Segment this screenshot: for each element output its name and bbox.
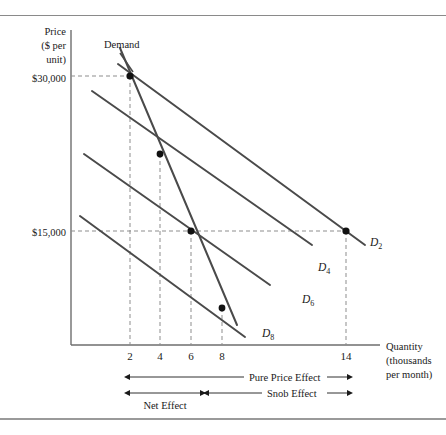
curve-label-d8: D8 (261, 327, 274, 342)
annotation-net-effect: Net Effect (130, 393, 200, 411)
point-q14-p15000 (342, 227, 349, 234)
x-tick-label-2: 2 (127, 350, 133, 362)
curve-d2 (118, 64, 365, 245)
curve-label-d6-sub: 6 (310, 299, 314, 308)
point-q4 (157, 151, 164, 158)
x-tick-label-8: 8 (219, 350, 225, 362)
x-axis-title-line-2: (thousands (386, 355, 432, 367)
snob-effect-demand-figure: Price ($ per unit) Quantity (thousands p… (0, 0, 446, 435)
curve-d6 (84, 154, 270, 285)
curve-labels: D2 D4 D6 D8 (261, 236, 382, 342)
curve-d8 (80, 216, 245, 337)
annotation-snob-effect: Snob Effect (209, 388, 347, 399)
point-q8 (219, 305, 226, 312)
curve-label-d6: D6 (301, 293, 314, 308)
curve-label-d8-sub: 8 (270, 333, 274, 342)
y-axis-title-line-3: unit) (46, 54, 66, 66)
annotation-pure-price-effect: Pure Price Effect (130, 372, 347, 383)
y-axis-title-line-1: Price (44, 26, 66, 37)
y-axis-title: Price ($ per unit) (41, 26, 66, 66)
y-axis-title-line-2: ($ per (41, 40, 66, 52)
snob-effect-label: Snob Effect (267, 388, 317, 399)
point-q6-p15000 (187, 227, 194, 234)
x-axis-title-line-3: per month) (386, 369, 433, 381)
net-effect-label: Net Effect (143, 400, 186, 411)
curve-d4 (92, 91, 312, 245)
demand-curve-label: Demand (104, 39, 140, 50)
curve-market-demand (120, 48, 237, 325)
demand-curves (80, 48, 365, 337)
y-tick-label-15000: $15,000 (32, 227, 66, 238)
x-axis-title: Quantity (thousands per month) (386, 341, 433, 381)
x-tick-label-6: 6 (188, 350, 194, 362)
curve-label-d4: D4 (317, 261, 330, 276)
pure-price-effect-label: Pure Price Effect (249, 372, 321, 383)
curve-label-d4-sub: 4 (326, 267, 330, 276)
curve-label-d2: D2 (369, 236, 382, 251)
y-tick-label-30000: $30,000 (32, 73, 66, 84)
x-tick-label-14: 14 (341, 350, 353, 362)
x-tick-label-4: 4 (157, 350, 163, 362)
x-axis-title-line-1: Quantity (386, 341, 423, 352)
point-q2-p30000 (126, 72, 133, 79)
curve-label-d2-sub: 2 (378, 242, 382, 251)
